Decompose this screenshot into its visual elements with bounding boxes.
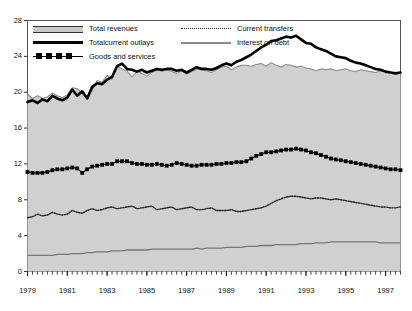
x-tick-label: 1983 (87, 286, 127, 295)
goods-and-services-marker (120, 159, 124, 163)
goods-and-services-marker (160, 163, 164, 167)
goods-and-services-marker (95, 164, 99, 168)
goods-and-services-marker (284, 148, 288, 152)
goods-and-services-marker (299, 148, 303, 152)
x-tick-label: 1979 (8, 286, 48, 295)
goods-and-services-marker (36, 171, 40, 175)
goods-and-services-marker (195, 164, 199, 168)
goods-and-services-marker (254, 154, 258, 158)
goods-and-services-marker (70, 166, 74, 170)
chart-figure: 0481216202428 19791981198319851987198919… (0, 0, 412, 311)
legend-label: Totalcurrent outlays (89, 36, 154, 49)
goods-and-services-marker (175, 161, 179, 165)
goods-and-services-marker (210, 163, 214, 167)
goods-and-services-marker (324, 155, 328, 159)
y-tick-label: 24 (2, 51, 22, 60)
goods-and-services-marker (389, 167, 393, 171)
legend-label: Total revenues (89, 22, 138, 35)
goods-and-services-marker (314, 151, 318, 155)
goods-and-services-marker (259, 152, 263, 156)
x-tick-label: 1997 (366, 286, 406, 295)
goods-and-services-marker (225, 161, 229, 165)
goods-and-services-marker (60, 167, 64, 171)
x-tick-label: 1981 (47, 286, 87, 295)
goods-and-services-marker (274, 149, 278, 153)
legend-grayline-swatch (181, 42, 231, 44)
goods-and-services-marker (145, 163, 149, 167)
legend-label: Current transfers (237, 22, 293, 35)
goods-and-services-marker (374, 165, 378, 169)
goods-and-services-marker (150, 163, 154, 167)
legend-label: Interest on debt (237, 36, 289, 49)
legend-swatch-area (33, 22, 83, 35)
goods-and-services-marker (50, 168, 54, 172)
goods-and-services-marker (125, 159, 129, 163)
y-tick-label: 0 (2, 267, 22, 276)
x-tick-label: 1985 (127, 286, 167, 295)
x-tick-label: 1995 (326, 286, 366, 295)
goods-and-services-marker (304, 149, 308, 153)
goods-and-services-marker (369, 164, 373, 168)
goods-and-services-marker (344, 159, 348, 163)
y-tick-label: 8 (2, 195, 22, 204)
goods-and-services-marker (85, 167, 89, 171)
goods-and-services-marker (215, 162, 219, 166)
goods-and-services-marker (110, 162, 114, 166)
goods-and-services-marker (100, 163, 104, 167)
goods-and-services-marker (200, 163, 204, 167)
goods-and-services-marker (329, 157, 333, 161)
goods-and-services-marker (90, 165, 94, 169)
goods-and-services-marker (180, 162, 184, 166)
goods-and-services-marker (140, 162, 144, 166)
goods-and-services-marker (309, 150, 313, 154)
x-tick-label: 1991 (246, 286, 286, 295)
goods-and-services-marker (41, 171, 45, 175)
goods-and-services-marker (354, 161, 358, 165)
goods-and-services-marker (359, 162, 363, 166)
goods-and-services-marker (339, 158, 343, 162)
x-tick-label: 1993 (286, 286, 326, 295)
goods-and-services-marker (334, 158, 338, 162)
goods-and-services-marker (269, 150, 273, 154)
goods-and-services-marker (190, 164, 194, 168)
goods-and-services-marker (220, 162, 224, 166)
goods-and-services-marker (399, 168, 403, 172)
goods-and-services-marker (239, 160, 243, 164)
y-tick-label: 28 (2, 16, 22, 25)
goods-and-services-marker (55, 167, 59, 171)
goods-and-services-marker (234, 160, 238, 164)
goods-and-services-marker (294, 147, 298, 151)
goods-and-services-marker (349, 160, 353, 164)
goods-and-services-marker (244, 159, 248, 163)
goods-and-services-marker (80, 171, 84, 175)
legend-label: Goods and services (89, 50, 155, 63)
chart-legend: Total revenuesTotalcurrent outlaysGoods … (33, 22, 303, 64)
y-tick-label: 20 (2, 87, 22, 96)
legend-dotted-swatch (181, 28, 231, 29)
x-tick-label: 1987 (167, 286, 207, 295)
goods-and-services-marker (65, 167, 69, 171)
legend-swatch-dotted (181, 22, 231, 35)
goods-and-services-marker (289, 148, 293, 152)
goods-and-services-marker (249, 157, 253, 161)
goods-and-services-marker (115, 159, 119, 163)
goods-and-services-marker (130, 161, 134, 165)
goods-and-services-marker (165, 164, 169, 168)
goods-and-services-marker (319, 153, 323, 157)
goods-and-services-marker (105, 162, 109, 166)
y-tick-label: 4 (2, 231, 22, 240)
goods-and-services-marker (205, 163, 209, 167)
y-tick-label: 12 (2, 159, 22, 168)
x-tick-label: 1989 (206, 286, 246, 295)
goods-and-services-marker (264, 150, 268, 154)
goods-and-services-marker (135, 162, 139, 166)
goods-and-services-marker (31, 171, 35, 175)
goods-and-services-marker (379, 166, 383, 170)
legend-swatch-thick (33, 36, 83, 49)
goods-and-services-marker (394, 167, 398, 171)
goods-and-services-marker (75, 167, 79, 171)
goods-and-services-marker (155, 162, 159, 166)
legend-square-markers (36, 53, 80, 60)
goods-and-services-marker (170, 163, 174, 167)
goods-and-services-marker (384, 167, 388, 171)
